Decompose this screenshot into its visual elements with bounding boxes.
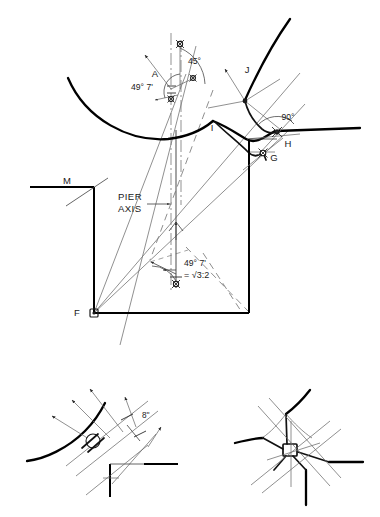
label-angle-49-7-upper: 49° 7' <box>131 82 153 92</box>
node-marker-top <box>176 40 184 48</box>
label-pier-axis-line2: AXIS <box>118 203 141 214</box>
label-angle-90: 90° <box>282 112 295 122</box>
label-dimension-8in: 8'' <box>142 411 150 420</box>
detail-ray-5 <box>148 427 161 447</box>
label-point-h: H <box>285 138 292 149</box>
detail-left-arc <box>27 403 105 461</box>
label-point-m: M <box>63 175 71 186</box>
label-point-i: I <box>211 122 214 133</box>
node-marker-j <box>243 99 248 104</box>
label-ratio-sqrt3-2: = √3:2 <box>184 270 209 280</box>
detail-rib-offsets: 8'' <box>27 389 178 497</box>
j-construction-rays <box>208 69 281 130</box>
geometric-diagram-canvas: A F G H I J M 45° 49° 7' 49° 7' = √3:2 9… <box>0 0 380 517</box>
label-point-a: A <box>152 68 159 79</box>
dimension-line-8in <box>127 425 140 441</box>
boss-rib-w <box>263 438 283 449</box>
label-angle-45: 45° <box>188 56 201 66</box>
pier-axis-centerlines <box>171 33 181 290</box>
node-marker-49-right <box>190 75 197 82</box>
label-point-j: J <box>245 64 250 75</box>
node-marker-lower-vertex <box>172 280 180 288</box>
label-point-f: F <box>74 307 80 318</box>
detail-ray-3 <box>90 389 123 432</box>
arc-upper-right <box>245 19 290 100</box>
label-pier-axis-line1: PIER <box>118 191 142 202</box>
node-marker-g <box>259 149 268 158</box>
ray-lower-49-left <box>151 262 176 274</box>
label-angle-49-7-lower: 49° 7' <box>184 258 206 268</box>
boss-rib-n <box>286 414 287 444</box>
main-setting-out-diagram: A F G H I J M 45° 49° 7' 49° 7' = √3:2 9… <box>30 19 360 345</box>
diagram-root: Pier axis geometric setting-out diagram <box>0 0 380 517</box>
ray-from-j-left <box>208 101 245 108</box>
label-point-g: G <box>270 152 277 163</box>
rib-h-right <box>276 128 360 131</box>
boss-arc-left <box>235 438 263 443</box>
ray-from-j-up <box>225 69 245 101</box>
detail-star-vault-boss <box>235 390 363 505</box>
boss-arc-top <box>286 390 310 414</box>
main-arc-ribs <box>68 19 360 160</box>
pier-m-oblique <box>66 178 108 206</box>
node-marker-49-vertex <box>168 96 175 103</box>
